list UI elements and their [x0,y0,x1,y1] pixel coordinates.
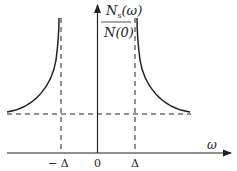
y-label-numerator: Ns(ω) [105,3,142,20]
curve-left [7,18,59,112]
x-axis-label: ω [207,138,217,152]
tick-zero: 0 [94,157,101,170]
tick-pos-delta: Δ [131,157,139,170]
density-of-states-diagram: Ns(ω) N(0) ω − Δ 0 Δ [0,0,237,171]
tick-neg-delta: − Δ [48,157,69,170]
y-label-denominator: N(0) [103,25,134,40]
curve-right [137,18,190,112]
